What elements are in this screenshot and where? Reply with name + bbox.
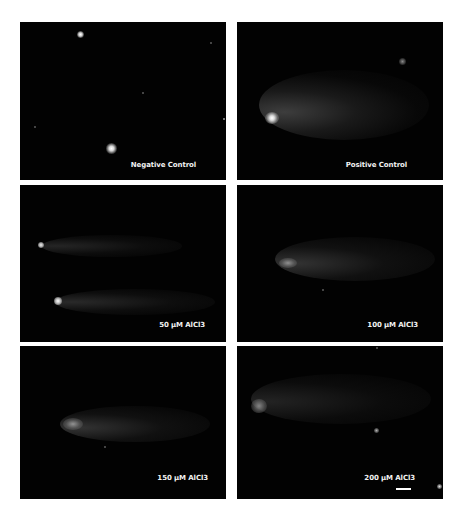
comet-tail bbox=[42, 235, 182, 257]
debris bbox=[104, 446, 106, 448]
comet-head bbox=[279, 258, 297, 268]
comet-tail bbox=[251, 374, 431, 424]
nucleus bbox=[399, 58, 406, 65]
panel-50uM: 50 µM AlCl3 bbox=[20, 185, 226, 342]
nucleus bbox=[374, 428, 379, 433]
panel-positive-control: Positive Control bbox=[237, 22, 443, 180]
debris bbox=[34, 126, 36, 128]
comet-head bbox=[38, 242, 44, 248]
panel-label: 50 µM AlCl3 bbox=[159, 321, 205, 329]
panel-label: Positive Control bbox=[346, 161, 407, 169]
panel-label: 200 µM AlCl3 bbox=[364, 474, 415, 482]
panel-150uM: 150 µM AlCl3 bbox=[20, 346, 226, 499]
nucleus bbox=[106, 143, 117, 154]
comet-head bbox=[251, 399, 267, 413]
scale-bar bbox=[396, 488, 411, 490]
comet-tail bbox=[55, 289, 215, 315]
comet-head bbox=[63, 418, 83, 430]
debris bbox=[223, 118, 225, 120]
debris bbox=[322, 289, 324, 291]
panel-label: 100 µM AlCl3 bbox=[367, 321, 418, 329]
panel-200uM: 200 µM AlCl3 bbox=[237, 346, 443, 499]
debris bbox=[376, 347, 378, 349]
panel-label: Negative Control bbox=[131, 161, 196, 169]
nucleus bbox=[77, 31, 84, 38]
panel-100uM: 100 µM AlCl3 bbox=[237, 185, 443, 342]
panel-label: 150 µM AlCl3 bbox=[157, 474, 208, 482]
panel-negative-control: Negative Control bbox=[20, 22, 226, 180]
debris bbox=[142, 92, 144, 94]
comet-tail bbox=[259, 70, 429, 140]
comet-tail bbox=[275, 237, 435, 281]
debris bbox=[210, 42, 212, 44]
comet-head bbox=[265, 112, 279, 124]
comet-head bbox=[54, 297, 62, 305]
debris bbox=[437, 484, 442, 489]
